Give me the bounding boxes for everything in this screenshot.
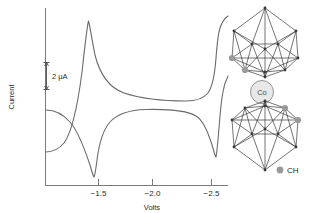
cobalt-center: Co	[251, 81, 274, 104]
cage-vertex-upper-ring-2	[251, 43, 254, 46]
scale-bar-label: 2 µA	[52, 72, 68, 81]
cage-vertex-lower-ring-4	[297, 57, 300, 60]
cage-vertex-lower-t-ring-1	[231, 119, 234, 122]
x-axis-title: Volts	[144, 203, 161, 212]
icosahedral-carborane-cage-lower	[231, 100, 302, 172]
cage-vertex-lower-t-ring-2	[244, 107, 247, 110]
cage-vertex-lower-top	[264, 105, 267, 108]
cage-vertex-upper-ring-4	[295, 30, 298, 33]
figure-root: −1.5 −2.0 −2.5 Volts Current 2 µA	[0, 0, 316, 213]
legend-ch-marker	[277, 167, 284, 174]
cv-anodic-sweep	[46, 16, 228, 152]
legend-ch-label: CH	[287, 166, 299, 175]
y-axis-title: Current	[7, 84, 16, 110]
ch-vertex-upper-a	[229, 55, 235, 61]
cobalt-label: Co	[257, 88, 267, 97]
cage-vertex-lower-ring-5	[264, 76, 267, 79]
cage-vertex-upper-bottom	[264, 71, 267, 74]
cage-vertex-lower-ring-3	[284, 69, 287, 72]
scale-bar: 2 µA	[44, 62, 68, 90]
ch-vertex-upper-b	[242, 67, 248, 73]
cage-vertex-upper-ring-3	[277, 43, 280, 46]
legend-ch: CH	[277, 166, 299, 175]
cage-vertex-lower-b-ring-4	[295, 146, 298, 149]
cage-vertex-upper-ring-5	[264, 48, 267, 51]
x-tick-label-1: −1.5	[91, 189, 107, 198]
x-tick-label-2: −2.0	[145, 189, 161, 198]
cv-curve-group	[46, 16, 228, 177]
ch-vertex-lower-a	[282, 105, 288, 111]
cage-vertex-lower-b-ring-2	[251, 133, 254, 136]
cage-vertex-upper-ring-1	[233, 30, 236, 33]
cage-vertex-lower-b-ring-1	[233, 146, 236, 149]
cage-vertex-lower-apex	[264, 169, 267, 172]
cage-vertex-lower-b-ring-3	[277, 133, 280, 136]
cage-vertex-upper-apex	[264, 7, 267, 10]
ch-vertex-lower-b	[295, 117, 301, 123]
cage-vertex-lower-b-ring-5	[264, 128, 267, 131]
cage-vertex-lower-t-ring-5	[264, 100, 267, 103]
icosahedral-carborane-cage-upper	[229, 7, 300, 79]
x-tick-label-3: −2.5	[204, 189, 220, 198]
cv-cathodic-sweep	[46, 76, 228, 177]
